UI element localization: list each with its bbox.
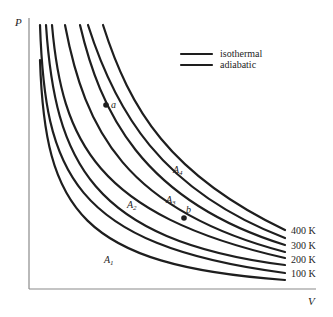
point-a-marker (103, 102, 109, 108)
temp-label-200k: 200 K (291, 254, 317, 265)
temp-label-300k: 300 K (291, 240, 317, 251)
legend-label-adiabatic: adiabatic (220, 59, 257, 70)
p-axis-label: P (14, 16, 22, 28)
pv-diagram: P V isothermal adiabatic a b A4 A3 A2 A1… (0, 0, 333, 317)
adiabat-a1 (40, 60, 285, 280)
temp-label-100k: 100 K (291, 268, 317, 279)
temp-label-400k: 400 K (291, 225, 317, 236)
label-a2: A2 (126, 199, 137, 212)
point-a-label: a (111, 99, 116, 110)
label-a1: A1 (103, 254, 114, 267)
legend-label-isothermal: isothermal (220, 48, 262, 59)
point-b-label: b (186, 204, 191, 215)
v-axis-label: V (308, 295, 316, 307)
legend: isothermal adiabatic (181, 48, 262, 70)
point-b-marker (181, 215, 187, 221)
